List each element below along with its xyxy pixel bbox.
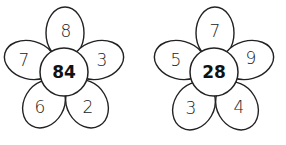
petal-bottom-left-number: 6 (35, 97, 46, 117)
petal-left-number: 5 (171, 50, 182, 70)
flower-2: 7 5 9 3 4 28 (150, 7, 278, 138)
petal-top-number: 7 (210, 21, 221, 41)
center-number: 84 (52, 62, 76, 82)
petal-bottom-right-number: 2 (83, 97, 94, 117)
petal-bottom-left-number: 3 (186, 98, 197, 118)
petal-bottom-right-number: 4 (234, 97, 245, 117)
center-number: 28 (202, 62, 226, 82)
flower-1: 8 7 3 6 2 84 (0, 7, 128, 136)
petal-right-number: 3 (97, 50, 108, 70)
petal-top-number: 8 (61, 21, 72, 41)
petal-left-number: 7 (19, 50, 30, 70)
number-flowers-diagram: 8 7 3 6 2 84 7 5 9 3 4 28 (0, 0, 286, 145)
petal-right-number: 9 (246, 48, 257, 68)
